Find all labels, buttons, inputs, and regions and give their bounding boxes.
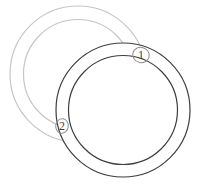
crossing-2-label: 2	[59, 119, 65, 133]
figure-canvas: 1 2	[0, 0, 197, 189]
linked-rings-figure: 1 2	[0, 0, 197, 189]
crossing-1-label: 1	[138, 48, 144, 62]
dark-ring	[56, 43, 190, 177]
dark-ring-outer-circle	[56, 43, 190, 177]
